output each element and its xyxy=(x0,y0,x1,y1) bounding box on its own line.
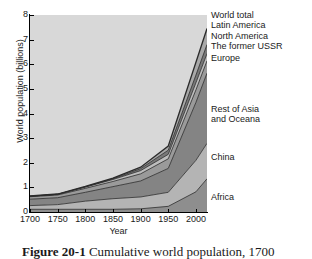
series-label-africa: Africa xyxy=(211,192,234,202)
chart-plot-area xyxy=(30,15,207,212)
y-tick-mark xyxy=(30,138,34,139)
series-label-world-total: World total xyxy=(211,10,254,20)
series-label-north-america: North America xyxy=(211,31,268,41)
series-label-rest-of-asia-line1: Rest of Asia xyxy=(211,104,259,114)
series-label-latin-america: Latin America xyxy=(211,20,266,30)
series-label-former-ussr: The former USSR xyxy=(211,41,283,51)
x-tick-mark xyxy=(168,209,169,213)
series-label-europe: Europe xyxy=(211,53,240,63)
y-tick-mark xyxy=(30,163,34,164)
x-tick-label: 1800 xyxy=(70,214,100,224)
figure-caption-label: Figure 20-1 xyxy=(22,244,86,259)
x-tick-mark xyxy=(141,209,142,213)
series-label-china: China xyxy=(211,152,235,162)
x-axis-title: Year xyxy=(30,226,207,236)
y-tick-mark xyxy=(30,187,34,188)
x-tick-mark xyxy=(113,209,114,213)
x-tick-label: 1850 xyxy=(98,214,128,224)
x-tick-label: 1700 xyxy=(15,214,45,224)
y-tick-label: 1 xyxy=(23,182,28,191)
y-tick-mark xyxy=(30,40,34,41)
x-tick-mark xyxy=(58,209,59,213)
x-tick-mark xyxy=(85,209,86,213)
x-tick-label: 2000 xyxy=(181,214,211,224)
y-tick-mark xyxy=(30,114,34,115)
stacked-area-chart xyxy=(30,15,207,212)
figure-caption-text: Cumulative world population, 1700 xyxy=(89,244,275,259)
x-tick-label: 1950 xyxy=(153,214,183,224)
x-tick-label: 1900 xyxy=(126,214,156,224)
y-axis-title: World population (billions) xyxy=(15,16,25,166)
x-axis-line xyxy=(29,212,208,213)
y-tick-mark xyxy=(30,89,34,90)
y-tick-mark xyxy=(30,64,34,65)
area-bands xyxy=(30,29,207,212)
series-label-rest-of-asia-line2: and Oceana xyxy=(211,114,260,124)
x-tick-mark xyxy=(196,209,197,213)
x-tick-label: 1750 xyxy=(43,214,73,224)
y-tick-mark xyxy=(30,15,34,16)
figure-caption: Figure 20-1 Cumulative world population,… xyxy=(22,244,304,259)
x-tick-mark xyxy=(30,209,31,213)
figure-container: 012345678 1700175018001850190019502000 W… xyxy=(0,0,312,259)
